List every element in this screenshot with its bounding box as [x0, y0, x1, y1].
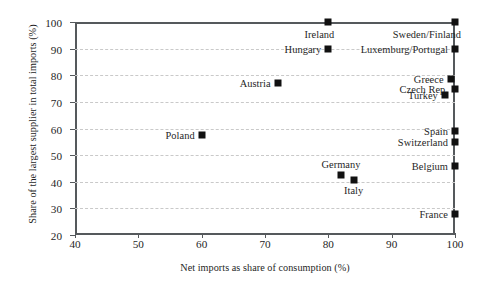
data-point-marker	[447, 76, 454, 83]
data-point-marker	[452, 210, 459, 217]
data-point-label: Italy	[344, 185, 363, 196]
data-point-label: France	[419, 208, 448, 219]
data-point-marker	[452, 45, 459, 52]
scatter-chart-figure: Share of the largest supplier in total i…	[0, 0, 494, 287]
y-tick-100: 100	[70, 22, 75, 23]
data-point-marker	[338, 172, 345, 179]
y-tick-label-60: 60	[51, 124, 62, 136]
data-point-marker	[441, 92, 448, 99]
y-tick-90: 90	[70, 49, 75, 50]
x-tick-label-90: 90	[386, 238, 397, 250]
y-tick-label-20: 20	[51, 230, 62, 242]
x-tick-label-80: 80	[323, 238, 334, 250]
y-axis-title: Share of the largest supplier in total i…	[22, 9, 44, 239]
data-point-marker	[452, 19, 459, 26]
axis-top-spine	[75, 22, 455, 24]
data-point-label: Hungary	[285, 43, 322, 54]
data-point-marker	[325, 19, 332, 26]
y-tick-40: 40	[70, 182, 75, 183]
y-tick-label-50: 50	[51, 150, 62, 162]
gridline-y-80	[75, 75, 455, 76]
y-tick-80: 80	[70, 75, 75, 76]
y-tick-label-90: 90	[51, 44, 62, 56]
y-tick-70: 70	[70, 102, 75, 103]
data-point-label: Sweden/Finland	[393, 29, 461, 40]
y-tick-label-100: 100	[45, 17, 62, 29]
gridline-y-30	[75, 208, 455, 209]
data-point-marker	[452, 138, 459, 145]
plot-area: 2030405060708090100 405060708090100 Swed…	[75, 22, 455, 235]
data-point-label: Luxemburg/Portugal	[361, 43, 448, 54]
gridline-y-40	[75, 182, 455, 183]
x-tick-label-40: 40	[69, 238, 80, 250]
data-point-marker	[198, 132, 205, 139]
y-tick-50: 50	[70, 155, 75, 156]
y-tick-label-80: 80	[51, 70, 62, 82]
data-point-label: Spain	[424, 126, 448, 137]
y-tick-60: 60	[70, 129, 75, 130]
x-tick-label-50: 50	[133, 238, 144, 250]
data-point-marker	[452, 128, 459, 135]
data-point-label: Poland	[165, 130, 194, 141]
x-tick-label-70: 70	[259, 238, 270, 250]
gridline-y-60	[75, 129, 455, 130]
data-point-label: Switzerland	[398, 136, 448, 147]
data-point-marker	[274, 80, 281, 87]
data-point-marker	[350, 177, 357, 184]
x-tick-label-100: 100	[447, 238, 464, 250]
y-tick-label-40: 40	[51, 177, 62, 189]
data-point-label: Turkey	[408, 90, 438, 101]
y-tick-label-70: 70	[51, 97, 62, 109]
gridline-y-70	[75, 102, 455, 103]
data-point-label: Ireland	[305, 29, 335, 40]
gridline-y-50	[75, 155, 455, 156]
data-point-marker	[452, 85, 459, 92]
data-point-marker	[325, 45, 332, 52]
data-point-label: Austria	[240, 78, 271, 89]
x-tick-label-60: 60	[196, 238, 207, 250]
y-tick-30: 30	[70, 208, 75, 209]
x-axis-title: Net imports as share of consumption (%)	[75, 262, 455, 273]
y-tick-label-30: 30	[51, 203, 62, 215]
data-point-label: Germany	[321, 159, 360, 170]
data-point-label: Belgium	[412, 160, 448, 171]
data-point-marker	[452, 162, 459, 169]
